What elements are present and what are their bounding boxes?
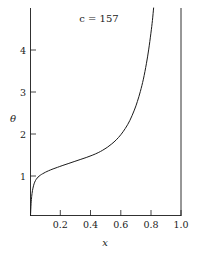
x-tick-label-1-0: 1.0 (173, 219, 188, 230)
y-tick-labels: 1 2 3 4 (20, 45, 26, 182)
data-curve-theta (31, 8, 154, 216)
y-tick-label-1: 1 (20, 171, 26, 182)
y-tick-marks (31, 50, 37, 176)
x-tick-marks (60, 210, 181, 216)
x-tick-label-0-8: 0.8 (143, 219, 158, 230)
x-tick-labels: 0.2 0.4 0.6 0.8 1.0 (53, 219, 189, 230)
y-tick-label-4: 4 (20, 45, 26, 56)
y-axis-label: θ (10, 113, 16, 124)
chart-title: c = 157 (79, 13, 118, 24)
x-tick-label-0-2: 0.2 (53, 219, 68, 230)
chart-figure: c = 157 1 2 3 4 0 (0, 0, 198, 260)
line-chart: c = 157 1 2 3 4 0 (0, 0, 198, 260)
x-tick-label-0-4: 0.4 (83, 219, 98, 230)
y-tick-label-2: 2 (20, 129, 26, 140)
y-tick-label-3: 3 (20, 87, 26, 98)
x-axis-label: x (102, 237, 108, 248)
x-tick-label-0-6: 0.6 (113, 219, 128, 230)
